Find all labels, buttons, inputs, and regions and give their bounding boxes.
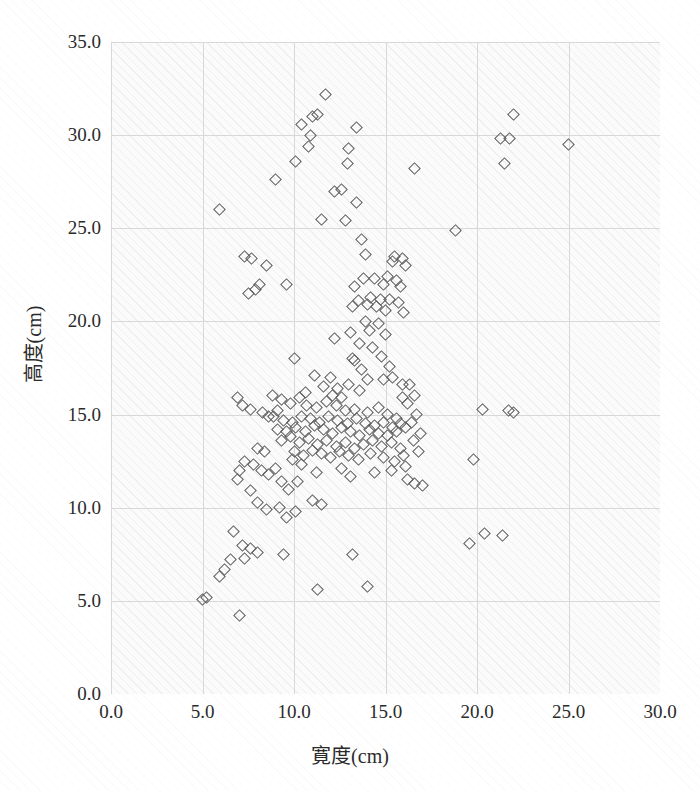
x-axis-title: 寛度(cm) bbox=[0, 740, 700, 769]
data-point bbox=[368, 466, 381, 479]
data-point bbox=[280, 278, 293, 291]
data-point bbox=[328, 332, 341, 345]
data-point bbox=[302, 140, 315, 153]
data-point bbox=[308, 369, 321, 382]
data-point bbox=[213, 203, 226, 216]
y-tick-label-5: 25.0 bbox=[0, 218, 101, 237]
data-point bbox=[375, 350, 388, 363]
data-point bbox=[343, 142, 356, 155]
data-point bbox=[244, 485, 257, 498]
data-point bbox=[467, 453, 480, 466]
data-point bbox=[359, 248, 372, 261]
data-point bbox=[311, 583, 324, 596]
data-point bbox=[507, 108, 520, 121]
data-point bbox=[227, 526, 240, 539]
data-point bbox=[319, 88, 332, 101]
data-point bbox=[289, 155, 302, 168]
data-point-layer bbox=[111, 42, 660, 694]
y-axis-title: 高度(cm) bbox=[18, 265, 47, 425]
x-tick-label-0: 0.0 bbox=[76, 702, 146, 721]
scatter-plot-figure: 0.05.010.015.020.025.030.035.0 0.05.010.… bbox=[0, 0, 700, 791]
data-point bbox=[476, 403, 489, 416]
data-point bbox=[361, 406, 374, 419]
data-point bbox=[379, 328, 392, 341]
data-point bbox=[344, 470, 357, 483]
y-tick-label-2: 10.0 bbox=[0, 498, 101, 517]
data-point bbox=[399, 460, 412, 473]
data-point bbox=[315, 213, 328, 226]
data-point bbox=[260, 259, 273, 272]
data-point bbox=[504, 133, 517, 146]
data-point bbox=[412, 445, 425, 458]
data-point bbox=[291, 475, 304, 488]
x-tick-label-1: 5.0 bbox=[168, 702, 238, 721]
data-point bbox=[383, 360, 396, 373]
data-point bbox=[260, 503, 273, 516]
data-point bbox=[324, 371, 337, 384]
data-point bbox=[304, 129, 317, 142]
data-point bbox=[365, 447, 378, 460]
y-tick-label-6: 30.0 bbox=[0, 125, 101, 144]
data-point bbox=[346, 548, 359, 561]
data-point bbox=[361, 373, 374, 386]
x-tick-label-3: 15.0 bbox=[351, 702, 421, 721]
data-point bbox=[449, 224, 462, 237]
data-point bbox=[339, 214, 352, 227]
y-tick-label-3: 15.0 bbox=[0, 405, 101, 424]
data-point bbox=[310, 466, 323, 479]
data-point bbox=[366, 341, 379, 354]
data-point bbox=[562, 138, 575, 151]
data-point bbox=[233, 609, 246, 622]
data-point bbox=[408, 162, 421, 175]
x-tick-label-5: 25.0 bbox=[534, 702, 604, 721]
data-point bbox=[350, 121, 363, 134]
data-point bbox=[354, 337, 367, 350]
x-tick-label-4: 20.0 bbox=[442, 702, 512, 721]
data-point bbox=[463, 537, 476, 550]
data-point bbox=[354, 384, 367, 397]
data-point bbox=[288, 352, 301, 365]
data-point bbox=[231, 473, 244, 486]
x-tick-label-2: 10.0 bbox=[259, 702, 329, 721]
y-tick-label-0: 0.0 bbox=[0, 684, 101, 703]
data-point bbox=[478, 527, 491, 540]
data-point bbox=[496, 529, 509, 542]
plot-area bbox=[111, 42, 660, 694]
data-point bbox=[348, 280, 361, 293]
y-tick-label-4: 20.0 bbox=[0, 311, 101, 330]
data-point bbox=[317, 380, 330, 393]
data-point bbox=[350, 196, 363, 209]
data-point bbox=[269, 174, 282, 187]
data-point bbox=[341, 157, 354, 170]
data-point bbox=[295, 118, 308, 131]
x-tick-label-6: 30.0 bbox=[625, 702, 695, 721]
y-tick-label-1: 5.0 bbox=[0, 591, 101, 610]
data-point bbox=[498, 157, 511, 170]
y-tick-label-7: 35.0 bbox=[0, 32, 101, 51]
data-point bbox=[277, 548, 290, 561]
data-point bbox=[361, 580, 374, 593]
data-point bbox=[344, 326, 357, 339]
data-point bbox=[355, 233, 368, 246]
